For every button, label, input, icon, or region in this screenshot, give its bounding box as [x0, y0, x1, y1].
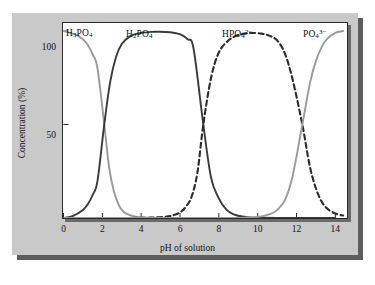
- chart-curves: [64, 31, 344, 218]
- curve-HPO42-: [64, 33, 344, 218]
- figure-root: 100 50 02468101214 pH of solution Concen…: [0, 0, 375, 285]
- xtick-label-2: 2: [94, 224, 110, 234]
- series-label-hpo4: HPO42−: [222, 28, 253, 40]
- x-axis-title: pH of solution: [0, 243, 375, 253]
- xtick-label-12: 12: [289, 224, 305, 234]
- series-label-h3po4: H3PO4: [66, 28, 93, 39]
- xtick-label-8: 8: [211, 224, 227, 234]
- xtick-label-14: 14: [327, 224, 343, 234]
- xtick-label-6: 6: [172, 224, 188, 234]
- y-axis-title: Concentration (%): [17, 63, 27, 183]
- xtick-label-10: 10: [250, 224, 266, 234]
- series-label-h2po4: H2PO4−: [126, 28, 157, 40]
- xtick-label-4: 4: [133, 224, 149, 234]
- curve-H2PO4-: [64, 32, 336, 218]
- xtick-label-0: 0: [56, 224, 72, 234]
- series-label-po4: PO43−: [303, 28, 327, 40]
- ytick-label-50: 50: [30, 130, 56, 140]
- ytick-label-100: 100: [30, 42, 56, 52]
